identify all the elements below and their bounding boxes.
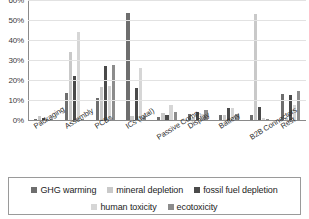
chart-legend: GHG warmingmineral depletionfossil fuel … xyxy=(8,177,301,215)
legend-label: fossil fuel depletion xyxy=(203,185,277,195)
gridline xyxy=(28,60,306,61)
legend-row: human toxicityecotoxicity xyxy=(9,198,300,215)
x-axis-labels: PackagingAssemblyPCBsICs (total)Passive … xyxy=(28,120,306,172)
legend-swatch-icon xyxy=(31,187,37,193)
y-tick-label: 30% xyxy=(9,56,24,65)
bar[interactable] xyxy=(297,91,300,120)
bar[interactable] xyxy=(258,107,261,120)
y-tick-label: 40% xyxy=(9,36,24,45)
gridline xyxy=(28,0,306,1)
y-axis: 60%50%40%30%20%10%0% xyxy=(0,0,26,120)
legend-label: human toxicity xyxy=(100,202,156,212)
legend-item[interactable]: GHG warming xyxy=(31,185,96,195)
gridline xyxy=(28,20,306,21)
legend-swatch-icon xyxy=(194,187,200,193)
legend-label: mineral depletion xyxy=(116,185,183,195)
bar[interactable] xyxy=(254,14,257,120)
bar-chart: 60%50%40%30%20%10%0% PackagingAssemblyPC… xyxy=(0,0,309,219)
bar[interactable] xyxy=(174,112,177,120)
plot-grid xyxy=(28,0,306,120)
gridline xyxy=(28,100,306,101)
bar[interactable] xyxy=(96,98,99,120)
gridline xyxy=(28,80,306,81)
bar[interactable] xyxy=(77,32,80,120)
bar[interactable] xyxy=(112,65,115,120)
bar[interactable] xyxy=(73,76,76,120)
y-tick-label: 50% xyxy=(9,16,24,25)
legend-item[interactable]: fossil fuel depletion xyxy=(194,185,277,195)
y-tick-label: 20% xyxy=(9,76,24,85)
legend-item[interactable]: ecotoxicity xyxy=(168,202,218,212)
bar[interactable] xyxy=(104,66,107,120)
legend-swatch-icon xyxy=(168,204,174,210)
legend-label: GHG warming xyxy=(40,185,96,195)
legend-swatch-icon xyxy=(107,187,113,193)
legend-swatch-icon xyxy=(91,204,97,210)
y-tick-label: 10% xyxy=(9,96,24,105)
legend-row: GHG warmingmineral depletionfossil fuel … xyxy=(9,181,300,198)
gridline xyxy=(28,40,306,41)
legend-label: ecotoxicity xyxy=(177,202,218,212)
legend-item[interactable]: mineral depletion xyxy=(107,185,183,195)
y-tick-label: 0% xyxy=(13,116,24,125)
y-tick-label: 60% xyxy=(9,0,24,5)
bar[interactable] xyxy=(126,13,129,120)
legend-item[interactable]: human toxicity xyxy=(91,202,156,212)
bar[interactable] xyxy=(69,52,72,120)
bar[interactable] xyxy=(65,93,68,120)
bar[interactable] xyxy=(100,87,103,120)
bar[interactable] xyxy=(161,113,164,120)
bar[interactable] xyxy=(169,105,172,120)
